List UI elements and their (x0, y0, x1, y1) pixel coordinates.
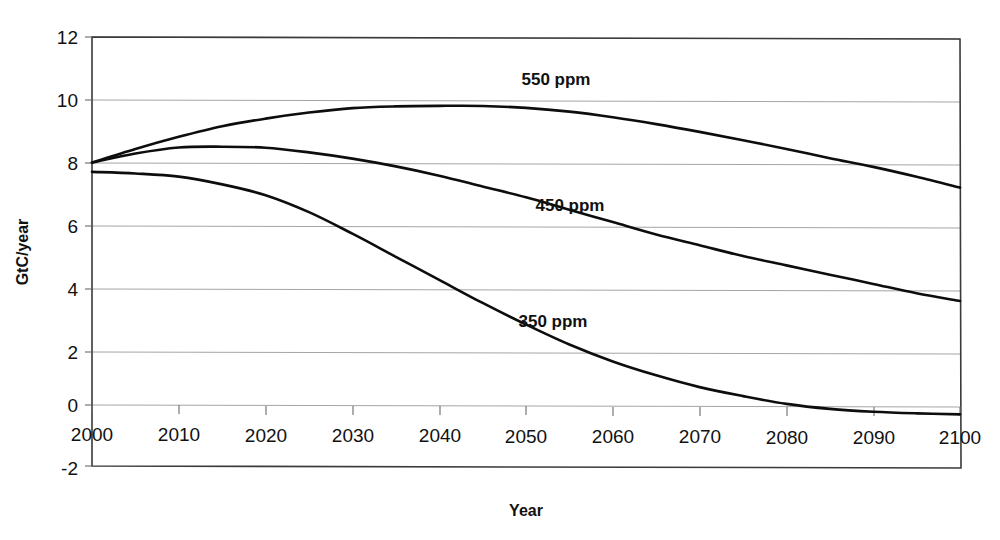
y-axis-title: GtC/year (14, 219, 31, 286)
y-tick-marks (85, 37, 92, 466)
series-curve-450ppm (92, 147, 960, 301)
data-series-group (92, 106, 960, 415)
y-tick-label: 10 (57, 90, 78, 111)
y-tick-label: -2 (61, 458, 78, 479)
y-tick-label: 2 (67, 342, 78, 363)
gridline-2 (92, 352, 960, 354)
y-tick-label: 8 (67, 153, 78, 174)
x-tick-label: 2010 (158, 424, 200, 445)
x-tick-label: 2070 (679, 426, 721, 447)
y-tick-label: 0 (67, 395, 78, 416)
x-tick-label: 2030 (332, 425, 374, 446)
gridline-6 (92, 226, 960, 228)
x-tick-label: 2100 (939, 427, 981, 448)
gridlines (92, 37, 960, 407)
emissions-line-chart: 12 10 8 6 4 2 0 -2 2000 2010 2020 2030 2… (0, 0, 1000, 540)
y-tick-label: 6 (67, 216, 78, 237)
gridline-4 (92, 289, 960, 291)
chart-figure: 12 10 8 6 4 2 0 -2 2000 2010 2020 2030 2… (0, 0, 1000, 540)
series-label-550ppm: 550 ppm (522, 70, 591, 89)
series-curve-350ppm (92, 172, 960, 415)
series-label-350ppm: 350 ppm (519, 312, 588, 331)
y-tick-label: 4 (67, 279, 78, 300)
y-axis-tick-labels: 12 10 8 6 4 2 0 -2 (57, 27, 79, 479)
x-tick-label: 2000 (71, 424, 113, 445)
x-tick-label: 2050 (505, 426, 547, 447)
gridline-10 (92, 100, 960, 102)
x-tick-label: 2020 (245, 425, 287, 446)
x-tick-label: 2080 (766, 427, 808, 448)
series-label-450ppm: 450 ppm (536, 196, 605, 215)
x-axis-title: Year (509, 502, 543, 519)
x-axis-tick-labels: 2000 2010 2020 2030 2040 2050 2060 2070 … (71, 424, 981, 448)
x-tick-label: 2060 (592, 426, 634, 447)
x-tick-label: 2090 (853, 427, 895, 448)
y-tick-label: 12 (57, 27, 78, 48)
x-tick-label: 2040 (419, 425, 461, 446)
gridline-8 (92, 163, 960, 165)
